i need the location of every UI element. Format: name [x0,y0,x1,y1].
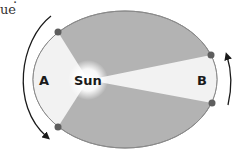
arrow-b-icon [227,56,231,105]
planet-dot-b-bottom [209,100,216,107]
label-b: B [197,73,207,88]
planet-dot-b-top [208,52,215,59]
planet-dot-a-top [55,29,62,36]
kepler-orbit-diagram: A Sun B [0,0,237,151]
label-a: A [39,73,49,88]
planet-dot-a-bottom [55,124,62,131]
label-sun: Sun [74,73,102,88]
